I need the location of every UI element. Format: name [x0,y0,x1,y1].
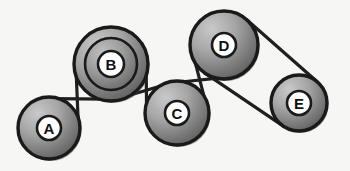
pulley-B[interactable]: B [74,27,150,103]
pulley-label-C: C [172,105,183,122]
pulley-A[interactable]: A [18,97,82,161]
pulley-diagram-svg: ABCDE [0,0,350,171]
pulley-D[interactable]: D [190,11,260,81]
pulley-E[interactable]: E [271,75,329,133]
pulley-label-A: A [44,120,55,137]
pulleys-layer: ABCDE [18,11,329,161]
pulley-label-B: B [106,56,117,73]
pulley-label-D: D [219,37,230,54]
pulley-C[interactable]: C [145,81,211,147]
pulley-diagram-canvas: ABCDE [0,0,350,171]
pulley-label-E: E [294,95,304,112]
